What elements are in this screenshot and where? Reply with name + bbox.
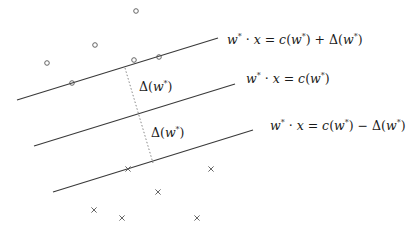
- negative-point-marker: [91, 207, 96, 212]
- positive-point-marker: [45, 61, 50, 66]
- upper-hyperplane-label: w* · x = c(w*) + Δ(w*): [227, 34, 363, 47]
- negative-point-marker: [194, 215, 199, 220]
- positive-point-marker: [93, 43, 98, 48]
- margin-label-upper: Δ(w*): [139, 81, 173, 94]
- positive-point-marker: [134, 9, 139, 14]
- hyperplane-middle: [34, 84, 235, 146]
- negative-point-marker: [155, 189, 160, 194]
- margin-label-lower: Δ(w*): [151, 127, 185, 140]
- middle-hyperplane-label: w* · x = c(w*): [246, 73, 330, 86]
- lower-hyperplane-label: w* · x = c(w*) − Δ(w*): [270, 120, 406, 133]
- hyperplane-upper: [17, 38, 218, 100]
- positive-point-marker: [132, 58, 137, 63]
- negative-point-marker: [208, 166, 213, 171]
- negative-point-marker: [119, 215, 124, 220]
- hyperplane-lines: [17, 38, 253, 192]
